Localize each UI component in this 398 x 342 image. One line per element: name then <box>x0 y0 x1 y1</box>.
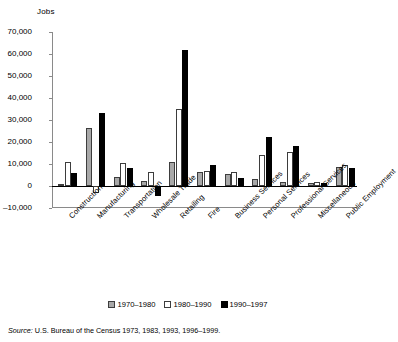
source-text: U.S. Bureau of the Census 1973, 1983, 19… <box>33 326 220 335</box>
legend-item: 1970–1980 <box>108 300 155 309</box>
y-tick-mark <box>49 98 52 99</box>
legend-swatch <box>221 301 228 308</box>
legend-swatch <box>108 301 115 308</box>
y-tick-label: 10,000 <box>0 159 32 168</box>
y-tick-label: –10,000 <box>0 203 32 212</box>
bar <box>252 179 258 186</box>
legend-item: 1990–1997 <box>221 300 268 309</box>
y-tick-mark <box>49 54 52 55</box>
source-label: Source: <box>8 326 33 335</box>
y-tick-mark <box>49 32 52 33</box>
y-axis-line <box>52 32 53 208</box>
source-note: Source: U.S. Bureau of the Census 1973, … <box>8 326 220 335</box>
bar <box>287 152 293 186</box>
bar <box>308 183 314 186</box>
y-tick-mark <box>49 76 52 77</box>
x-axis-line <box>52 207 357 208</box>
legend-label: 1980–1990 <box>173 300 211 309</box>
y-tick-label: 40,000 <box>0 93 32 102</box>
bar <box>280 182 286 186</box>
bar <box>141 181 147 187</box>
y-tick-mark <box>49 120 52 121</box>
legend-label: 1970–1980 <box>117 300 155 309</box>
bar <box>99 113 105 186</box>
bar <box>58 184 64 186</box>
y-tick-mark <box>49 164 52 165</box>
legend-item: 1980–1990 <box>164 300 211 309</box>
y-tick-mark <box>49 142 52 143</box>
bar <box>176 109 182 186</box>
bar <box>169 162 175 186</box>
bar <box>86 128 92 186</box>
y-tick-mark <box>49 208 52 209</box>
y-tick-label: 70,000 <box>0 27 32 36</box>
y-tick-label: 20,000 <box>0 137 32 146</box>
y-tick-label: 0 <box>0 181 32 190</box>
legend-swatch <box>164 301 171 308</box>
y-tick-label: 50,000 <box>0 71 32 80</box>
y-axis-title: Jobs <box>37 7 55 16</box>
bar <box>114 177 120 186</box>
bar <box>65 162 71 186</box>
bar <box>204 171 210 186</box>
legend-label: 1990–1997 <box>230 300 268 309</box>
bar <box>231 172 237 186</box>
legend: 1970–19801980–19901990–1997 <box>0 300 376 309</box>
bar <box>182 50 188 186</box>
bar <box>225 174 231 186</box>
y-tick-label: 30,000 <box>0 115 32 124</box>
y-tick-label: 60,000 <box>0 49 32 58</box>
bar <box>238 178 244 186</box>
bar <box>71 173 77 186</box>
plot-area: 70,00060,00050,00040,00030,00020,00010,0… <box>52 32 357 208</box>
bar <box>210 165 216 186</box>
